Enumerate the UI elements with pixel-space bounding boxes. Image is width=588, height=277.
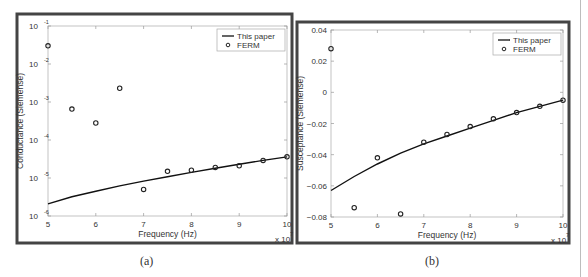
y-tick-label: 10 xyxy=(29,212,38,221)
y-tick-label: 10 xyxy=(29,174,38,183)
legend: This paperFERM xyxy=(217,29,285,51)
y-tick-exponent: -4 xyxy=(44,133,49,139)
x-tick-label: 9 xyxy=(237,220,242,229)
y-tick-exponent: -5 xyxy=(44,171,49,177)
chart-panel-b: 5678910−0.08−0.06−0.04−0.0200.020.04Freq… xyxy=(295,22,569,245)
x-tick-label: 10 xyxy=(283,220,292,229)
legend-label-this-paper: This paper xyxy=(513,36,551,45)
x-tick-label: 7 xyxy=(141,220,146,229)
page-edge-rule xyxy=(580,0,581,277)
y-tick-exponent: -2 xyxy=(44,57,49,63)
legend-label-ferm: FERM xyxy=(513,45,536,54)
y-tick-label: 10 xyxy=(29,136,38,145)
y-axis-label: Conductance (Siemense) xyxy=(15,73,25,169)
y-tick-label: 10 xyxy=(29,60,38,69)
y-tick-exponent: -1 xyxy=(44,19,49,25)
figure-canvas: 567891010-610-510-410-310-210-1Frequency… xyxy=(0,0,588,277)
x-tick-label: 10 xyxy=(559,221,568,230)
x-axis-label: Frequency (Hz) xyxy=(418,230,477,240)
x-tick-label: 6 xyxy=(94,220,99,229)
chart-panel-a: 567891010-610-510-410-310-210-1Frequency… xyxy=(15,14,293,244)
legend: This paperFERM xyxy=(493,33,561,55)
y-tick-label: 0.04 xyxy=(311,26,327,35)
x-multiplier: x 10 xyxy=(275,235,291,244)
y-tick-label: 0.02 xyxy=(311,57,327,66)
y-axis-label: Susceptance (Siemense) xyxy=(295,76,305,171)
y-tick-exponent: -3 xyxy=(44,95,49,101)
y-tick-label: 10 xyxy=(29,98,38,107)
x-multiplier-exponent: 7 xyxy=(566,232,569,238)
x-tick-label: 5 xyxy=(46,220,51,229)
y-tick-label: −0.08 xyxy=(307,213,328,222)
x-tick-label: 6 xyxy=(375,221,380,230)
y-tick-label: 10 xyxy=(29,22,38,31)
y-tick-label: −0.04 xyxy=(307,151,328,160)
y-tick-label: 0 xyxy=(323,88,328,97)
x-tick-label: 9 xyxy=(514,221,519,230)
x-tick-label: 8 xyxy=(189,220,194,229)
figure: 567891010-610-510-410-310-210-1Frequency… xyxy=(0,0,588,277)
y-tick-label: −0.06 xyxy=(307,182,328,191)
legend-label-this-paper: This paper xyxy=(237,32,275,41)
x-tick-label: 5 xyxy=(329,221,334,230)
x-multiplier-exponent: 7 xyxy=(290,231,293,237)
y-tick-label: −0.02 xyxy=(307,120,328,129)
caption-b: (b) xyxy=(425,254,439,269)
caption-a: (a) xyxy=(140,254,153,269)
x-tick-label: 8 xyxy=(468,221,473,230)
x-multiplier: x 10 xyxy=(551,236,567,245)
x-tick-label: 7 xyxy=(422,221,427,230)
y-tick-exponent: -6 xyxy=(44,209,49,215)
x-axis-label: Frequency (Hz) xyxy=(138,229,197,239)
legend-label-ferm: FERM xyxy=(237,41,260,50)
